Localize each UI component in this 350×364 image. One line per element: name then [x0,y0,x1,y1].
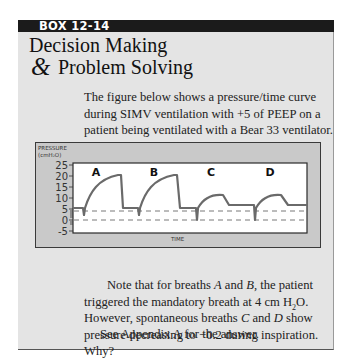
box-header-bar: BOX 12-14 [18,20,334,32]
y-tick-20: 20 [55,171,68,182]
y-tick-10: 10 [55,193,68,204]
breath-label-d: D [265,166,274,179]
pressure-time-graph: PRESSURE (cmH₂O) TIME [35,142,321,248]
breath-label-c: C [207,166,215,179]
y-tick-5: 5 [62,204,68,215]
breath-label-a: A [92,166,101,179]
decision-making-box: BOX 12-14 Decision Making & Problem Solv… [18,20,334,350]
y-tick-0: 0 [62,215,68,226]
question-paragraph: Note that for breaths A and B, the patie… [84,277,342,360]
waveform-plot: 25 20 15 10 5 0 -5 A B C D [36,143,322,249]
y-tick-25: 25 [55,160,68,171]
y-tick-15: 15 [55,182,68,193]
ampersand-glyph: & [31,54,50,80]
y-tick-minus5: -5 [58,226,68,237]
breath-label-b: B [150,166,158,179]
box-number-label: BOX 12-14 [39,19,109,33]
box-title-line2: Problem Solving [58,56,193,78]
intro-paragraph: The figure below shows a pressure/time c… [84,89,342,139]
answer-reference: See Appendix A for the answer. [100,326,350,343]
